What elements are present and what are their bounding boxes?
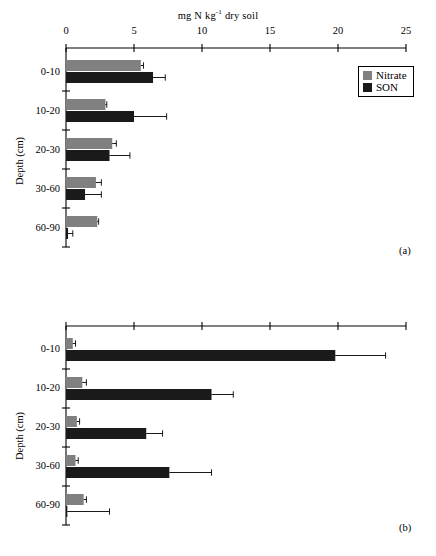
panel-b: Depth (cm) 0-10 10-20 20-30 30-60 60-90 … (0, 280, 436, 556)
legend-label-nitrate: Nitrate (376, 70, 407, 82)
legend-label-son: SON (376, 82, 398, 94)
figure-container: mg N kg-1 dry soil 0 5 10 15 20 25 Depth… (0, 0, 436, 556)
panel-b-plot (0, 280, 436, 556)
legend-swatch-son-icon (363, 83, 372, 92)
panel-a: mg N kg-1 dry soil 0 5 10 15 20 25 Depth… (0, 0, 436, 280)
legend-item-son: SON (363, 82, 407, 94)
panel-tag-b: (b) (399, 522, 411, 533)
legend: Nitrate SON (358, 66, 414, 97)
legend-swatch-nitrate-icon (363, 71, 372, 80)
legend-item-nitrate: Nitrate (363, 70, 407, 82)
panel-tag-a: (a) (399, 245, 411, 256)
panel-a-plot (0, 0, 436, 280)
